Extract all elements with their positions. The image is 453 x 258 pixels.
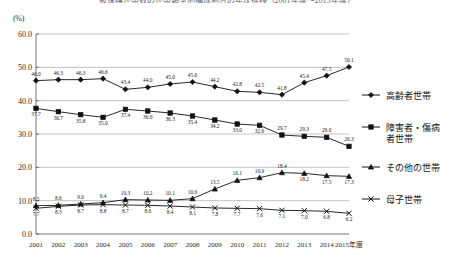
data-label: 44.2 [210,77,220,83]
x-axis-tick-label: 2015年度 [335,240,363,249]
x-axis-tick-label: 2003 [74,241,89,249]
data-label: 8.3 [55,209,62,215]
marker-square [79,112,83,116]
x-axis-tick-label: 2010 [230,241,245,249]
data-label: 35.4 [188,119,198,125]
x-axis-tick-label: 2013 [297,241,312,249]
marker-square [190,114,194,118]
data-label: 9.4 [100,193,107,199]
marker-square [302,134,306,138]
y-axis-tick-label: 0.0 [22,230,32,239]
data-label: 10.6 [188,189,198,195]
data-label: 35.8 [76,118,86,124]
data-label: 8.4 [167,209,174,215]
data-label: 10.3 [121,190,131,196]
x-axis-tick-label: 2001 [29,241,44,249]
marker-diamond [123,87,128,92]
x-axis-tick-label: 2006 [141,241,156,249]
marker-diamond [190,79,195,84]
data-label: 26.3 [344,136,354,142]
data-label: 45.0 [165,74,175,80]
x-axis-ticks-group: 2001200220032004200520062007200820092010… [29,240,363,249]
data-label: 7.7 [33,211,40,217]
marker-square [101,115,105,119]
data-label: 7.8 [211,211,218,217]
data-label: 10.2 [143,190,153,196]
x-axis-tick-label: 2005 [118,241,133,249]
data-label: 13.5 [210,179,220,185]
x-axis-tick-label: 2014 [320,241,335,249]
data-label: 34.2 [210,123,220,129]
chart-plot-area: 0.010.020.030.040.050.060.0 200120022003… [0,0,453,258]
data-label: 50.1 [344,57,354,63]
marker-square [347,144,351,148]
legend-label-2: 障害者・傷病 [386,122,440,133]
data-label: 36.3 [165,116,175,122]
data-label: 16.1 [232,170,242,176]
chart-container: 被保護世帯数の世帯類型別構成割合の年次推移（2001年度〜2015年度） (%)… [0,0,453,258]
y-axis-tick-label: 30.0 [18,130,32,139]
data-label: 7.1 [279,213,286,219]
data-label: 18.4 [277,163,287,169]
marker-square [369,125,373,129]
x-axis-tick-label: 2008 [186,241,201,249]
marker-diamond [324,73,329,78]
data-label: 36.9 [143,114,153,120]
data-label: 8.5 [33,196,40,202]
y-axis-tick-label: 10.0 [18,197,32,206]
marker-square [146,109,150,113]
data-label: 6.2 [346,216,353,222]
data-label: 37.4 [121,112,131,118]
data-label: 36.7 [54,115,64,121]
marker-diamond [168,81,173,86]
marker-square [56,109,60,113]
data-label: 6.8 [323,214,330,220]
marker-square [168,111,172,115]
data-label: 17.5 [322,179,332,185]
data-label: 8.6 [144,208,151,214]
data-label: 8.1 [189,210,196,216]
legend-label-1: 高齢者世帯 [386,90,431,101]
data-label: 42.5 [255,82,265,88]
data-label: 9.0 [77,194,84,200]
y-axis-ticks-group: 0.010.020.030.040.050.060.0 [18,30,32,239]
marker-diamond [279,92,284,97]
data-label: 29.0 [322,127,332,133]
data-label: 45.4 [300,73,310,79]
data-label: 10.1 [165,190,175,196]
data-label: 7.0 [301,214,308,220]
marker-diamond [56,77,61,82]
marker-square [324,135,328,139]
marker-diamond [33,78,38,83]
data-label: 46.3 [54,70,64,76]
marker-diamond [78,77,83,82]
marker-diamond [145,85,150,90]
data-label: 29.3 [300,126,310,132]
x-axis-tick-label: 2004 [96,241,111,249]
chart-legend: 高齢者世帯障害者・傷病者世帯その他の世帯母子世帯 [362,90,440,205]
marker-diamond [257,90,262,95]
data-label: 29.7 [277,125,287,131]
marker-diamond [235,89,240,94]
data-label: 16.9 [255,168,265,174]
y-axis-tick-label: 40.0 [18,97,32,106]
legend-label-4: 母子世帯 [386,194,422,205]
x-axis-tick-label: 2011 [253,241,267,249]
data-label: 17.3 [344,179,354,185]
marker-diamond [302,80,307,85]
data-label: 46.6 [98,69,108,75]
marker-square [235,122,239,126]
data-label: 42.8 [232,81,242,87]
data-label: 8.6 [55,195,62,201]
legend-label-3: その他の世帯 [386,162,440,173]
marker-square [280,133,284,137]
marker-square [123,107,127,111]
data-label: 7.7 [234,211,241,217]
x-axis-tick-label: 2009 [208,241,223,249]
x-axis-tick-label: 2012 [275,241,290,249]
data-label: 46.3 [76,70,86,76]
data-label: 47.5 [322,66,332,72]
data-label: 41.8 [277,85,287,91]
marker-diamond [346,64,351,69]
y-axis-tick-label: 50.0 [18,63,32,72]
